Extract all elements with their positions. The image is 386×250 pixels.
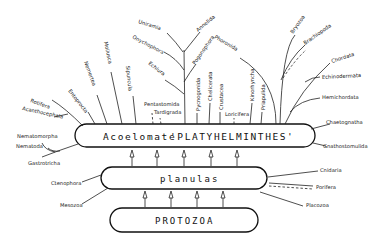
arrow-icon [195, 191, 199, 207]
label-loricifera: Loricifera [225, 111, 249, 117]
branch-onychophora [164, 52, 184, 70]
branch-porifera-dashed [269, 186, 313, 189]
label-gnathostomulida: Gnathostomulida [323, 143, 368, 149]
branch-uniramia [167, 33, 183, 52]
branch-sipuncula [133, 96, 136, 124]
label-placozoa: Placozoa [306, 202, 329, 208]
branch-echiura [165, 80, 184, 94]
branch-placozoa [260, 192, 303, 206]
branch-priapulida [261, 112, 262, 124]
branch-entoprocta [88, 112, 95, 124]
arrow-icon [182, 150, 186, 166]
label-brachiopoda: Brachiopoda [302, 22, 333, 46]
arrow-icon [130, 150, 134, 166]
label-nematoda: Nematoda [16, 143, 43, 149]
label-annelida: Annelida [195, 14, 216, 33]
label-mollusca: Mollusca [103, 41, 114, 64]
label-tardigrada: Tardigrada [153, 109, 181, 116]
label-bryozoa: Bryozoa [289, 14, 307, 35]
arrow-icon [209, 150, 213, 166]
branch-porifera [269, 183, 313, 186]
arrow-icon [169, 191, 173, 207]
label-ctenophora: Ctenophora [51, 180, 81, 187]
branch-bryozoa [280, 35, 295, 124]
label-phoronida: Phoronida [214, 34, 240, 52]
label-echiura: Echiura [147, 60, 166, 77]
label-chaetognatha: Chaetognatha [326, 119, 363, 126]
label-echinodermata: Echinodermata [322, 72, 362, 80]
branch-cnidaria [268, 171, 318, 177]
label-hemichordata: Hemichordata [322, 94, 359, 100]
branch-brachiopoda [281, 45, 305, 80]
label-nematomorpha: Nematomorpha [17, 133, 58, 140]
label-kinorhyncha: Kinorhyncha [249, 69, 256, 101]
branch-tardigrada [160, 118, 161, 124]
arrow-icon [155, 150, 159, 166]
branch-gastrotricha [42, 144, 78, 157]
label-chelicerata: Chelicerata [207, 71, 213, 101]
trunk-articulata [184, 50, 185, 124]
label-uniramia: Uniramia [138, 18, 162, 31]
planulas-label: planulas [160, 174, 219, 184]
branch-brachiopoda-dashed [283, 50, 306, 78]
platyhelminthes-label: 'PLATYHELMINTHES' [170, 131, 294, 142]
label-priapulida: Priapulida [260, 84, 267, 110]
label-gastrotricha: Gastrotricha [28, 160, 60, 166]
label-mesozoa: Mesozoa [60, 202, 83, 208]
branch-annelida [184, 32, 200, 52]
protozoa-label: PROTOZOA [155, 216, 214, 226]
branch-chelicerata [209, 103, 210, 124]
arrow-icon [235, 150, 239, 166]
phylogeny-diagram: Acoelomate 'PLATYHELMINTHES' planulas PR… [0, 0, 386, 250]
branch-kinorhyncha [250, 103, 252, 124]
label-onychophora: Onychophora [131, 34, 165, 57]
label-cnidaria: Cnidaria [320, 167, 342, 173]
branch-ctenophora [82, 175, 101, 182]
label-crustacea: Crustacea [218, 84, 224, 110]
branch-nemertea [97, 95, 107, 124]
label-entoprocta: Entoprocta [66, 88, 89, 115]
arrow-icon [221, 191, 225, 207]
label-chordata: Chordata [330, 51, 355, 64]
branch-pentastomida [152, 113, 153, 124]
arrow-icon [143, 191, 147, 207]
arrows-protozoa-to-planulas [143, 191, 225, 207]
label-porifera: Porifera [316, 184, 336, 190]
label-sipuncula: Sipuncula [124, 65, 134, 91]
label-pycnogonida: Pycnogonida [195, 78, 202, 111]
label-pentastomida: Pentastomida [144, 101, 180, 107]
acoelomate-label: Acoelomate [103, 131, 176, 142]
branch-mollusca [111, 72, 122, 124]
arrows-planulas-to-platyhelminthes [130, 150, 239, 166]
label-nemertea: Nemertea [83, 60, 97, 86]
branch-mesozoa [82, 188, 108, 204]
